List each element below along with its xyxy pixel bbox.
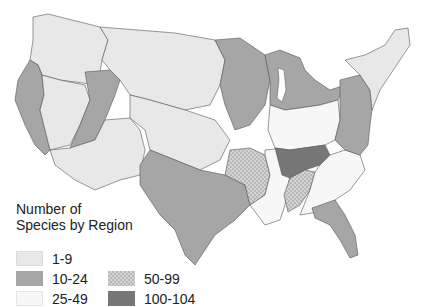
legend-label: 10-24 xyxy=(52,271,88,287)
region-missouri xyxy=(100,27,225,110)
legend-item-1-9: 1-9 xyxy=(16,251,72,266)
region-upper-mississippi xyxy=(215,38,270,130)
region-great-lakes xyxy=(265,50,345,110)
legend-item-25-49: 25-49 xyxy=(16,291,88,306)
legend-item-10-24: 10-24 xyxy=(16,271,88,286)
legend-item-100-104: 100-104 xyxy=(108,291,195,306)
legend-title-line1: Number of xyxy=(16,201,216,217)
region-florida xyxy=(312,200,358,258)
legend-label: 1-9 xyxy=(52,251,72,267)
legend-swatch xyxy=(16,251,43,266)
legend-items: 1-9 10-24 25-49 50-99 100-104 xyxy=(16,239,216,299)
legend-swatch xyxy=(108,271,135,286)
legend-label: 50-99 xyxy=(144,271,180,287)
legend-label: 25-49 xyxy=(52,291,88,307)
legend-swatch xyxy=(16,271,43,286)
legend-label: 100-104 xyxy=(144,291,195,307)
legend-item-50-99: 50-99 xyxy=(108,271,180,286)
legend-title-line2: Species by Region xyxy=(16,217,216,233)
map-legend: Number of Species by Region 1-9 10-24 25… xyxy=(16,201,216,233)
region-mid-atlantic xyxy=(335,75,372,155)
legend-swatch xyxy=(108,291,135,306)
legend-swatch xyxy=(16,291,43,306)
